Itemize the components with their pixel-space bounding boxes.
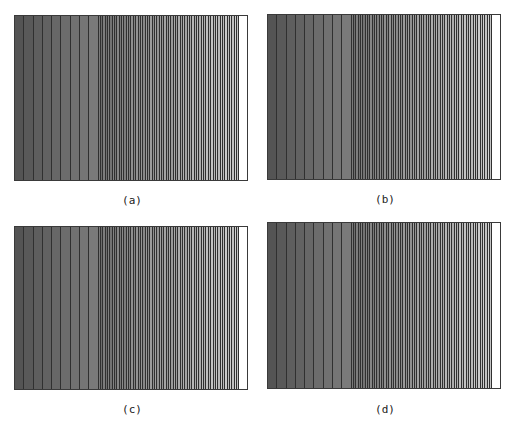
stripe-band	[61, 16, 70, 180]
stripe-band	[80, 227, 89, 389]
stripe-band	[305, 223, 314, 388]
stripe-band	[287, 15, 296, 179]
stripe-band	[277, 15, 286, 179]
stripe-band	[71, 227, 80, 389]
stripe-band	[71, 16, 80, 180]
stripe-band	[314, 223, 323, 388]
stripe-panel-d	[267, 222, 501, 389]
stripe-band	[333, 15, 342, 179]
stripe-panel-b	[267, 14, 501, 180]
stripe-panel-a	[14, 15, 248, 181]
stripe-band	[314, 15, 323, 179]
stripe-band	[296, 223, 305, 388]
stripe-band	[34, 227, 43, 389]
stripe-band	[15, 16, 24, 180]
stripe-band	[287, 223, 296, 388]
stripe-band	[268, 223, 277, 388]
stripe-band	[277, 223, 286, 388]
stripe-band	[490, 15, 492, 179]
stripe-panel-c	[14, 226, 248, 390]
stripe-band	[324, 15, 333, 179]
stripe-band	[490, 223, 492, 388]
stripe-band	[34, 16, 43, 180]
stripe-band	[237, 16, 239, 180]
panel-caption-c: (c)	[102, 403, 162, 416]
stripe-band	[333, 223, 342, 388]
stripe-band	[237, 227, 239, 389]
panel-caption-a: (a)	[102, 194, 162, 207]
stripe-band	[342, 223, 351, 388]
stripe-band	[15, 227, 24, 389]
panel-caption-d: (d)	[355, 403, 415, 416]
stripe-band	[43, 16, 52, 180]
stripe-band	[296, 15, 305, 179]
stripe-band	[305, 15, 314, 179]
stripe-band	[268, 15, 277, 179]
stripe-band	[324, 223, 333, 388]
stripe-band	[52, 227, 61, 389]
stripe-band	[52, 16, 61, 180]
stripe-band	[89, 227, 98, 389]
stripe-band	[80, 16, 89, 180]
stripe-band	[24, 227, 33, 389]
stripe-band	[24, 16, 33, 180]
stripe-band	[61, 227, 70, 389]
stripe-band	[43, 227, 52, 389]
panel-caption-b: (b)	[355, 193, 415, 206]
stripe-band	[89, 16, 98, 180]
stripe-band	[342, 15, 351, 179]
